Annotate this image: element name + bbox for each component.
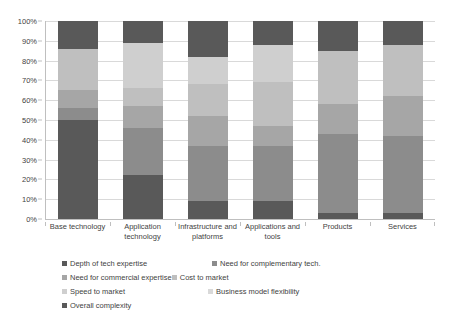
y-axis-tick-mark — [38, 179, 42, 180]
bar-slot — [305, 21, 370, 219]
stacked-bar[interactable] — [383, 21, 423, 219]
bar-segment[interactable] — [253, 126, 293, 146]
legend-item[interactable]: Need for commercial expertise — [62, 270, 172, 284]
legend-item-label: Cost to market — [180, 273, 229, 282]
y-axis-tick-label: 60% — [22, 96, 37, 105]
y-axis-tick-label: 30% — [22, 155, 37, 164]
legend-item[interactable]: Business model flexibility — [208, 284, 299, 298]
legend-item[interactable]: Speed to market — [62, 284, 208, 298]
y-axis-tick-label: 50% — [22, 116, 37, 125]
bar-segment[interactable] — [383, 21, 423, 45]
legend-item-label: Need for commercial expertise — [70, 273, 172, 282]
bar-segment[interactable] — [318, 104, 358, 134]
bar-segment[interactable] — [253, 201, 293, 219]
y-axis-tick-mark — [38, 199, 42, 200]
bar-segment[interactable] — [58, 49, 98, 91]
bar-segment[interactable] — [58, 21, 98, 49]
legend-item-label: Need for complementary tech. — [220, 259, 320, 268]
bar-segment[interactable] — [188, 146, 228, 201]
bar-slot — [240, 21, 305, 219]
legend-swatch-icon — [62, 275, 67, 280]
x-axis-category-label: Base technology — [45, 222, 110, 252]
bar-segment[interactable] — [58, 120, 98, 219]
y-axis-tick-mark — [38, 139, 42, 140]
bar-segment[interactable] — [123, 128, 163, 176]
bar-segment[interactable] — [383, 213, 423, 219]
bar-segment[interactable] — [253, 146, 293, 201]
stacked-bar[interactable] — [188, 21, 228, 219]
x-axis-tick-mark — [434, 222, 435, 226]
bar-segment[interactable] — [58, 90, 98, 108]
bar-segment[interactable] — [188, 116, 228, 146]
bar-segment[interactable] — [123, 43, 163, 89]
x-axis-tick-mark — [240, 222, 241, 226]
plot-area — [45, 21, 435, 219]
legend-item-label: Depth of tech expertise — [70, 259, 147, 268]
bar-slot — [370, 21, 435, 219]
y-axis-tick-label: 40% — [22, 135, 37, 144]
stacked-bar[interactable] — [318, 21, 358, 219]
bar-segment[interactable] — [253, 82, 293, 126]
legend-swatch-icon — [62, 303, 67, 308]
bar-segment[interactable] — [123, 21, 163, 43]
bar-slot — [45, 21, 110, 219]
x-axis-tick-mark — [45, 222, 46, 226]
y-axis-tick-label: 70% — [22, 76, 37, 85]
bar-segment[interactable] — [383, 45, 423, 96]
y-axis-tick-mark — [38, 80, 42, 81]
x-axis-tick-mark — [305, 222, 306, 226]
legend-item[interactable]: Cost to market — [172, 270, 322, 284]
stacked-bar[interactable] — [253, 21, 293, 219]
bar-segment[interactable] — [123, 175, 163, 219]
bar-segment[interactable] — [318, 134, 358, 213]
legend-item[interactable]: Overall complexity — [62, 298, 212, 312]
bar-segment[interactable] — [383, 136, 423, 213]
legend-swatch-icon — [212, 261, 217, 266]
y-axis-tick-label: 10% — [22, 195, 37, 204]
bar-segment[interactable] — [123, 88, 163, 106]
bar-segment[interactable] — [318, 213, 358, 219]
x-axis-labels: Base technologyApplication technologyInf… — [45, 222, 435, 252]
stacked-bar[interactable] — [58, 21, 98, 219]
y-axis-tick-mark — [38, 60, 42, 61]
stacked-bar[interactable] — [123, 21, 163, 219]
bar-segment[interactable] — [188, 57, 228, 85]
bar-segment[interactable] — [188, 84, 228, 116]
bar-segment[interactable] — [318, 21, 358, 51]
bar-segment[interactable] — [383, 96, 423, 136]
x-axis-category-label: Products — [305, 222, 370, 252]
y-axis-tick-mark — [38, 120, 42, 121]
y-axis-tick-mark — [38, 21, 42, 22]
x-axis-tick-mark — [175, 222, 176, 226]
x-axis-tick-mark — [370, 222, 371, 226]
y-axis-tick-label: 80% — [22, 56, 37, 65]
y-axis-tick-label: 20% — [22, 175, 37, 184]
bar-segment[interactable] — [58, 108, 98, 120]
bar-series-group — [45, 21, 435, 219]
legend-swatch-icon — [62, 289, 67, 294]
bar-segment[interactable] — [123, 106, 163, 128]
y-axis-tick-mark — [38, 159, 42, 160]
y-axis-tick-label: 90% — [22, 36, 37, 45]
x-axis-category-label: Services — [370, 222, 435, 252]
bar-segment[interactable] — [253, 45, 293, 83]
bar-segment[interactable] — [188, 21, 228, 57]
bar-segment[interactable] — [188, 201, 228, 219]
gridline — [45, 219, 435, 220]
y-axis-tick-mark — [38, 40, 42, 41]
y-axis-tick-mark — [38, 100, 42, 101]
legend-item-label: Speed to market — [70, 287, 125, 296]
bar-segment[interactable] — [253, 21, 293, 45]
legend-item[interactable]: Need for complementary tech. — [212, 256, 358, 270]
y-axis-tick-mark — [38, 219, 42, 220]
legend-item-label: Business model flexibility — [216, 287, 299, 296]
legend-swatch-icon — [208, 289, 213, 294]
x-axis-category-label: Infrastructure and platforms — [175, 222, 240, 252]
legend-item-label: Overall complexity — [70, 301, 131, 310]
bar-segment[interactable] — [318, 51, 358, 104]
x-axis-category-label: Application technology — [110, 222, 175, 252]
legend-item[interactable]: Depth of tech expertise — [62, 256, 212, 270]
legend-swatch-icon — [172, 275, 177, 280]
bar-slot — [110, 21, 175, 219]
